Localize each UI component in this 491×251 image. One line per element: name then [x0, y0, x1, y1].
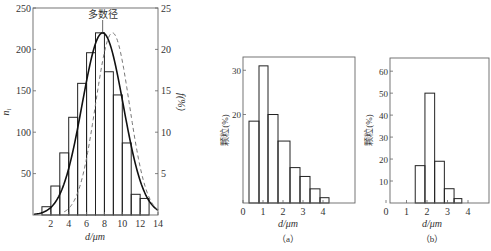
- x-tick-label: 6: [84, 218, 89, 229]
- x-tick-label: 0: [384, 206, 389, 217]
- histogram-bar: [290, 168, 300, 203]
- x-tick-label: 1: [261, 206, 266, 217]
- chart-b-y-axis-label: 颗粒(%): [363, 114, 374, 146]
- histogram-bar: [454, 199, 462, 203]
- x-tick-label: 2: [425, 206, 430, 217]
- y-tick-label: 250: [16, 3, 31, 14]
- x-tick-label: 10: [117, 218, 127, 229]
- y-tick-label: 40: [379, 111, 389, 121]
- y-tick-label: 50: [21, 168, 31, 179]
- y-right-tick-label: 10: [161, 127, 171, 138]
- histogram-bar: [415, 166, 425, 203]
- x-tick-label: 3: [301, 206, 306, 217]
- y-tick-label: 50: [379, 89, 389, 99]
- y-tick-label: 60: [379, 67, 389, 77]
- mode-annotation: 多数径: [88, 8, 118, 20]
- x-tick-label: 4: [321, 206, 326, 217]
- left-y-axis-label: ni: [0, 108, 13, 115]
- y-tick-label: 100: [16, 127, 31, 138]
- chart-a-bars: [249, 66, 329, 203]
- chart-b-caption: （b）: [421, 234, 444, 244]
- x-tick-label: 4: [66, 218, 71, 229]
- chart-a-axes: 203001234: [232, 57, 355, 217]
- y-tick-label: 30: [232, 66, 242, 76]
- y-tick-label: 200: [16, 44, 31, 55]
- y-right-tick-label: 15: [161, 85, 171, 96]
- chart-a-caption: （a）: [277, 234, 299, 244]
- y-tick-label: 30: [379, 133, 389, 143]
- histogram-bar: [320, 198, 329, 203]
- left-histogram-chart: 501001502002505101520252468101214 多数径 d/…: [0, 3, 187, 243]
- histogram-bar: [122, 143, 131, 215]
- plot-frame: [390, 58, 489, 203]
- histogram-bar: [300, 176, 310, 203]
- x-tick-label: 0: [241, 206, 246, 217]
- x-tick-label: 1: [404, 206, 409, 217]
- histogram-bar: [259, 66, 268, 203]
- figure-canvas: 501001502002505101520252468101214 多数径 d/…: [0, 0, 491, 251]
- x-tick-label: 8: [102, 218, 107, 229]
- chart-b-x-axis-label: d/μm: [422, 218, 442, 229]
- y-tick-label: 150: [16, 85, 31, 96]
- histogram-bar: [140, 198, 149, 215]
- y-right-tick-label: 5: [161, 168, 166, 179]
- histogram-bar: [113, 95, 122, 215]
- histogram-bar: [249, 121, 259, 203]
- histogram-bar: [425, 93, 435, 203]
- left-right-y-axis-label: f(%): [175, 93, 187, 111]
- x-tick-label: 12: [135, 218, 145, 229]
- chart-b-bars: [415, 93, 462, 203]
- histogram-bar: [51, 186, 60, 215]
- histogram-bar: [435, 161, 445, 203]
- chart-b: 10203040506001234 颗粒(%) d/μm （b）: [363, 58, 489, 244]
- y-right-tick-label: 25: [161, 3, 171, 14]
- left-histogram-bars: [42, 33, 149, 215]
- y-tick-label: 20: [232, 110, 242, 120]
- chart-b-axes: 10203040506001234: [379, 58, 489, 217]
- x-tick-label: 2: [281, 206, 286, 217]
- left-x-axis-label: d/μm: [85, 231, 105, 242]
- x-tick-label: 14: [153, 218, 163, 229]
- chart-a: 203001234 颗粒(%) d/μm （a）: [219, 57, 355, 244]
- histogram-bar: [104, 72, 113, 215]
- histogram-bar: [278, 141, 290, 203]
- histogram-bar: [268, 115, 278, 203]
- x-tick-label: 3: [445, 206, 450, 217]
- left-axes: 501001502002505101520252468101214: [16, 3, 171, 230]
- plot-frame: [243, 57, 355, 203]
- chart-a-y-axis-label: 颗粒(%): [219, 114, 230, 146]
- y-tick-label: 10: [379, 177, 389, 187]
- y-tick-label: 20: [379, 155, 389, 165]
- histogram-bar: [310, 189, 320, 203]
- chart-a-x-axis-label: d/μm: [278, 218, 298, 229]
- histogram-bar: [444, 189, 454, 203]
- histogram-bar: [131, 194, 140, 215]
- histogram-bar: [96, 33, 105, 215]
- y-right-tick-label: 20: [161, 44, 171, 55]
- x-tick-label: 2: [48, 218, 53, 229]
- x-tick-label: 4: [466, 206, 471, 217]
